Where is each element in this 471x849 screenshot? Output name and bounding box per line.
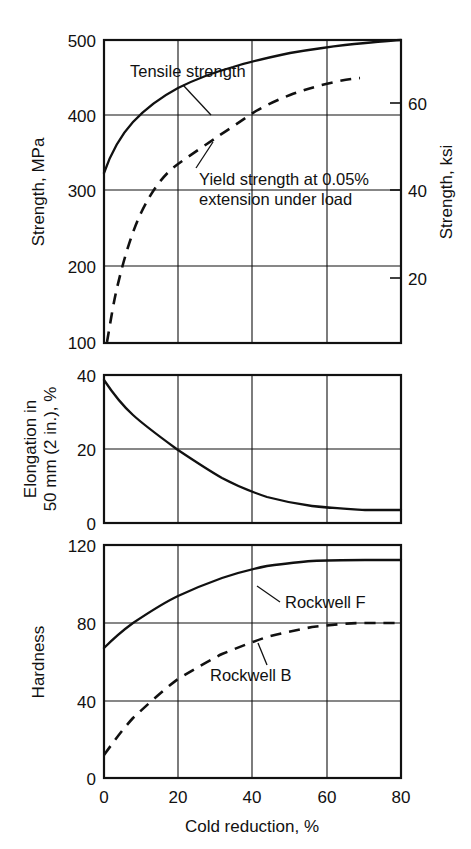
xtick-60: 60 (318, 788, 337, 807)
ytick-ksi-40: 40 (408, 182, 427, 201)
x-axis: 0 20 40 60 80 Cold reduction, % (99, 788, 410, 836)
xtick-0: 0 (99, 788, 108, 807)
panel-elongation: 40 20 0 Elongation in 50 mm (2 in.), % (21, 367, 401, 534)
ytick-hardness-0: 0 (87, 770, 96, 789)
curve-yield-strength (107, 78, 360, 342)
annotation-yield-strength-line1: Yield strength at 0.05% (199, 170, 369, 188)
ytick-strength-100: 100 (68, 334, 96, 353)
ytick-ksi-60: 60 (408, 95, 427, 114)
ytick-elongation-20: 20 (77, 441, 96, 460)
ytick-strength-300: 300 (68, 182, 96, 201)
ytick-hardness-40: 40 (77, 693, 96, 712)
leader-rockwell-f (257, 586, 280, 602)
axis-title-x: Cold reduction, % (185, 817, 319, 836)
multi-panel-chart: Tensile strength Yield strength at 0.05%… (0, 0, 471, 849)
leader-tensile-strength (183, 85, 211, 115)
ytick-strength-500: 500 (68, 32, 96, 51)
ytick-strength-200: 200 (68, 258, 96, 277)
annotation-rockwell-f: Rockwell F (285, 593, 366, 611)
axis-title-hardness: Hardness (29, 626, 48, 699)
ytick-strength-400: 400 (68, 107, 96, 126)
xtick-20: 20 (169, 788, 188, 807)
figure-container: Tensile strength Yield strength at 0.05%… (0, 0, 471, 849)
axis-title-elongation-line2: 50 mm (2 in.), % (41, 387, 60, 512)
ytick-elongation-0: 0 (87, 515, 96, 534)
ytick-elongation-40: 40 (77, 367, 96, 386)
annotation-tensile-strength: Tensile strength (130, 62, 246, 80)
leader-rockwell-b (258, 643, 267, 665)
leader-yield-strength (196, 142, 213, 168)
ytick-hardness-80: 80 (77, 615, 96, 634)
ytick-hardness-120: 120 (68, 537, 96, 556)
axis-title-strength-mpa: Strength, MPa (29, 137, 48, 246)
xtick-40: 40 (243, 788, 262, 807)
annotation-yield-strength-line2: extension under load (199, 190, 352, 208)
xtick-80: 80 (392, 788, 411, 807)
axis-title-strength-ksi: Strength, ksi (437, 145, 456, 240)
ytick-ksi-20: 20 (408, 270, 427, 289)
panel-hardness: Rockwell F Rockwell B 120 80 40 0 Hardne… (29, 537, 401, 789)
axis-title-elongation-line1: Elongation in (21, 400, 40, 498)
panel-strength: Tensile strength Yield strength at 0.05%… (29, 32, 456, 353)
annotation-rockwell-b: Rockwell B (210, 666, 292, 684)
